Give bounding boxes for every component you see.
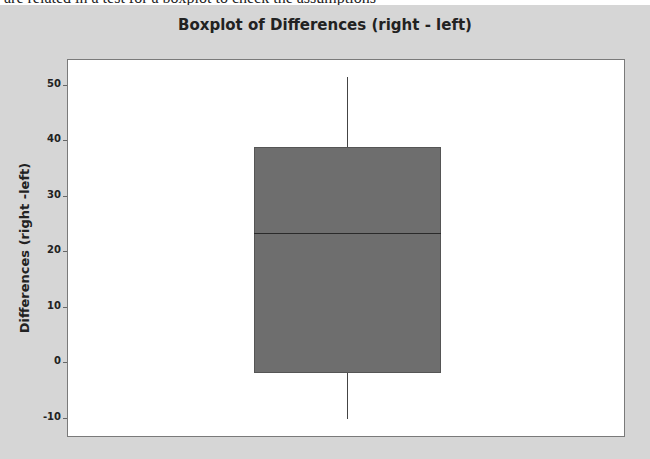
y-tick-label: 0 [31, 355, 61, 366]
median-line [254, 233, 441, 234]
y-tick-label: 20 [31, 244, 61, 255]
y-tick-label: 30 [31, 189, 61, 200]
y-tick [63, 307, 67, 308]
y-tick-label: 50 [31, 78, 61, 89]
y-tick [63, 418, 67, 419]
y-tick [63, 362, 67, 363]
y-tick [63, 140, 67, 141]
iqr-box [254, 147, 441, 373]
y-tick [63, 251, 67, 252]
chart-title: Boxplot of Differences (right - left) [0, 16, 650, 34]
y-tick-label: 10 [31, 300, 61, 311]
upper-whisker [347, 77, 348, 147]
y-axis-label: Differences (right -left) [17, 163, 32, 333]
y-tick [63, 85, 67, 86]
y-tick-label: -10 [31, 411, 61, 422]
y-tick-label: 40 [31, 133, 61, 144]
y-tick [63, 196, 67, 197]
lower-whisker [347, 373, 348, 419]
